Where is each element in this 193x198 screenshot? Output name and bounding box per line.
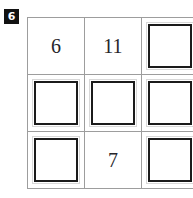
- grid-cell-r3c3: [142, 132, 193, 189]
- answer-box-r2c3[interactable]: [148, 81, 192, 125]
- puzzle-grid: 6 11 7: [27, 17, 193, 189]
- grid-cell-r3c1: [28, 132, 85, 189]
- answer-box-r2c2[interactable]: [91, 81, 135, 125]
- grid-cell-r2c1: [28, 75, 85, 132]
- answer-box-r1c3[interactable]: [148, 24, 192, 68]
- problem-number-badge: 6: [4, 9, 19, 24]
- cell-number-r1c1: 6: [51, 36, 61, 56]
- answer-box-r3c3[interactable]: [148, 138, 192, 182]
- grid-cell-r1c3: [142, 18, 193, 75]
- grid-cell-r1c2: 11: [85, 18, 142, 75]
- grid-cell-r2c3: [142, 75, 193, 132]
- grid-cell-r3c2: 7: [85, 132, 142, 189]
- grid-cell-r2c2: [85, 75, 142, 132]
- cell-number-r3c2: 7: [108, 150, 118, 170]
- answer-box-r3c1[interactable]: [34, 138, 78, 182]
- puzzle-figure: 6 6 11 7: [0, 0, 193, 198]
- cell-number-r1c2: 11: [103, 36, 122, 56]
- grid-cell-r1c1: 6: [28, 18, 85, 75]
- answer-box-r2c1[interactable]: [34, 81, 78, 125]
